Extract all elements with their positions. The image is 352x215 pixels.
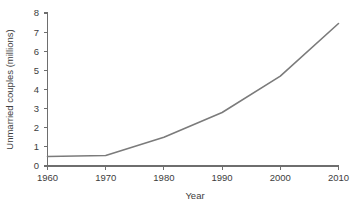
y-tick-label-6: 6 (34, 46, 39, 57)
y-axis-title: Unmarried couples (millions) (4, 29, 15, 149)
line-chart: 0 1 2 3 4 5 6 7 8 1960 1970 1980 1990 20… (0, 0, 352, 215)
y-axis-ticks (44, 13, 48, 166)
x-tick-label-1990: 1990 (212, 172, 233, 183)
y-tick-label-0: 0 (34, 160, 39, 171)
y-tick-label-2: 2 (34, 122, 39, 133)
x-tick-label-1970: 1970 (95, 172, 116, 183)
x-tick-label-2000: 2000 (270, 172, 291, 183)
x-axis-title: Year (185, 190, 204, 201)
y-tick-label-8: 8 (34, 7, 39, 18)
y-tick-label-7: 7 (34, 27, 39, 38)
data-series-line (48, 24, 339, 157)
y-tick-label-4: 4 (34, 84, 39, 95)
x-tick-label-1960: 1960 (37, 172, 58, 183)
y-tick-labels: 0 1 2 3 4 5 6 7 8 (34, 7, 39, 171)
y-tick-label-3: 3 (34, 103, 39, 114)
x-axis-ticks (48, 166, 339, 170)
y-tick-label-1: 1 (34, 141, 39, 152)
x-tick-labels: 1960 1970 1980 1990 2000 2010 (37, 172, 349, 183)
y-tick-label-5: 5 (34, 65, 39, 76)
chart-canvas: 0 1 2 3 4 5 6 7 8 1960 1970 1980 1990 20… (0, 0, 352, 215)
x-tick-label-2010: 2010 (328, 172, 349, 183)
x-tick-label-1980: 1980 (153, 172, 174, 183)
